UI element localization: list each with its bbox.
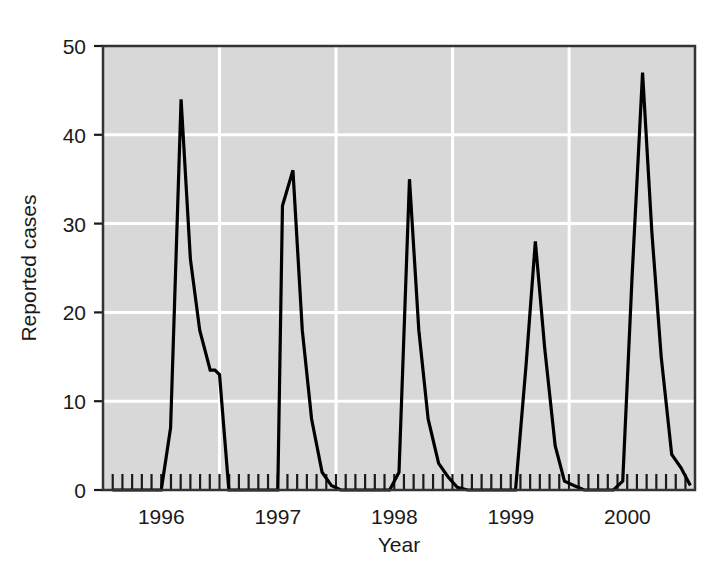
y-axis-tick-label: 20 bbox=[63, 301, 86, 324]
x-axis-tick-label: 1998 bbox=[371, 505, 418, 528]
figure-container: 01020304050 19961997199819992000 Reporte… bbox=[0, 0, 719, 570]
x-axis-tick-label: 1996 bbox=[138, 505, 185, 528]
line-chart: 01020304050 19961997199819992000 Reporte… bbox=[0, 0, 719, 570]
y-axis-title: Reported cases bbox=[17, 194, 40, 341]
x-axis-tick-label: 1997 bbox=[254, 505, 301, 528]
x-axis-tick-label: 1999 bbox=[488, 505, 535, 528]
y-axis-tick-label: 40 bbox=[63, 124, 86, 147]
y-axis-tick-label: 30 bbox=[63, 213, 86, 236]
y-axis-tick-label: 0 bbox=[74, 479, 86, 502]
y-axis-tick-label: 10 bbox=[63, 390, 86, 413]
y-axis-tick-label: 50 bbox=[63, 35, 86, 58]
x-axis-tick-label: 2000 bbox=[604, 505, 651, 528]
x-axis-title: Year bbox=[378, 533, 420, 556]
